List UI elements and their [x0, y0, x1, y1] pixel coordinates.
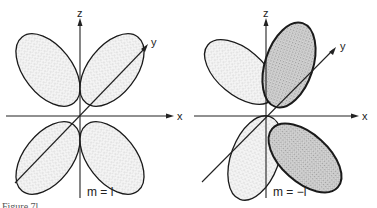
z-label-left: z [77, 7, 83, 19]
lobe-upper-left [3, 22, 93, 118]
y-label-left: y [151, 36, 157, 48]
lobe-lower-left [3, 110, 93, 206]
m-label-left: m = l [87, 185, 113, 199]
panel-right: z x y m = −l [193, 7, 368, 208]
x-arrow-right [351, 114, 359, 119]
figure-caption: Figure 7l [2, 201, 39, 208]
m-label-right: m = −l [273, 185, 306, 199]
panel-left: z x y m = l [3, 7, 183, 206]
z-arrow-right [264, 18, 269, 26]
orbital-figure: z x y m = l z x y m = −l Figure 7l [0, 0, 377, 208]
lobe-upper-right [67, 22, 157, 118]
y-label-right: y [340, 40, 346, 52]
lobes-right [193, 16, 354, 208]
x-label-right: x [362, 110, 368, 122]
z-label-right: z [263, 7, 269, 19]
x-label-left: x [177, 110, 183, 122]
z-arrow-left [78, 18, 83, 26]
x-arrow-left [166, 114, 174, 119]
y-arrow-right [329, 47, 336, 55]
